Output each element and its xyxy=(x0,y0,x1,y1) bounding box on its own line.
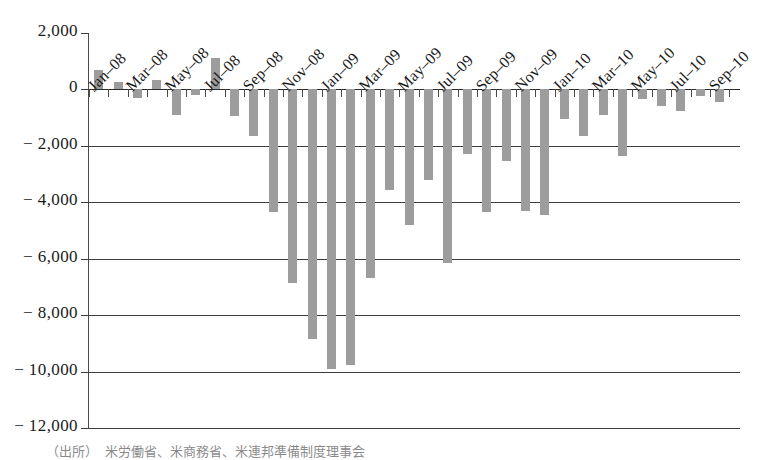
x-axis-tick xyxy=(555,89,556,97)
x-axis-tick xyxy=(205,89,206,97)
gridline--12000 xyxy=(88,428,740,429)
bar-Jan–09 xyxy=(327,89,336,368)
x-axis-tick xyxy=(264,89,265,97)
x-axis-tick xyxy=(671,89,672,97)
x-axis-tick xyxy=(244,89,245,97)
x-axis-tick xyxy=(535,89,536,97)
bar-Aug–10 xyxy=(696,89,705,96)
bar-Jul–09 xyxy=(443,89,452,263)
y-axis-tick-label: − 6,000 xyxy=(23,247,78,267)
bar-Mar–09 xyxy=(366,89,375,278)
x-axis-tick xyxy=(710,89,711,97)
x-axis-tick xyxy=(458,89,459,97)
bar-Apr–10 xyxy=(618,89,627,155)
x-axis-tick xyxy=(729,89,730,97)
bar-May–09 xyxy=(405,89,414,224)
x-axis-tick xyxy=(496,89,497,97)
bar-Oct–09 xyxy=(502,89,511,161)
x-axis-tick xyxy=(361,89,362,97)
bar-Nov–08 xyxy=(288,89,297,282)
source-note: （出所） 米労働省、米商務省、米連邦準備制度理事会 xyxy=(46,441,365,460)
x-axis-tick xyxy=(341,89,342,97)
y-axis-tick-label: − 8,000 xyxy=(23,303,78,323)
x-axis-tick xyxy=(438,89,439,97)
y-tick--12000 xyxy=(81,428,89,429)
x-axis-tick xyxy=(302,89,303,97)
bar-Jun–08 xyxy=(191,89,200,95)
x-axis-tick xyxy=(128,89,129,97)
bar-Aug–09 xyxy=(463,89,472,154)
x-axis-tick xyxy=(399,89,400,97)
x-axis-tick xyxy=(691,89,692,97)
x-axis-tick xyxy=(380,89,381,97)
x-axis-tick xyxy=(613,89,614,97)
x-axis-tick xyxy=(477,89,478,97)
bar-Sep–09 xyxy=(482,89,491,212)
x-axis-tick xyxy=(632,89,633,97)
y-axis-tick-label: − 2,000 xyxy=(23,134,78,154)
x-axis-tick xyxy=(283,89,284,97)
bar-Jun–10 xyxy=(657,89,666,106)
bar-Nov–09 xyxy=(521,89,530,210)
x-axis-tick xyxy=(593,89,594,97)
x-axis-tick xyxy=(186,89,187,97)
x-axis-tick xyxy=(147,89,148,97)
y-axis-tick-label: − 10,000 xyxy=(14,360,78,380)
bar-Oct–08 xyxy=(269,89,278,212)
x-axis-tick xyxy=(516,89,517,97)
x-axis-tick xyxy=(167,89,168,97)
x-axis-tick xyxy=(652,89,653,97)
bar-Apr–08 xyxy=(152,80,161,90)
bar-Aug–08 xyxy=(230,89,239,116)
x-axis-tick xyxy=(108,89,109,97)
bar-Apr–09 xyxy=(385,89,394,189)
y-axis-tick-label: − 4,000 xyxy=(23,190,78,210)
y-axis-tick-label: − 12,000 xyxy=(14,416,78,436)
bar-Sep–08 xyxy=(249,89,258,136)
x-axis-tick xyxy=(89,89,90,97)
y-axis-tick-label: 0 xyxy=(69,77,78,97)
bar-Feb–09 xyxy=(346,89,355,364)
bar-Dec–09 xyxy=(540,89,549,215)
x-axis-tick xyxy=(419,89,420,97)
bar-Jun–09 xyxy=(424,89,433,179)
x-axis-tick xyxy=(322,89,323,97)
x-axis-tick xyxy=(225,89,226,97)
bar-Feb–08 xyxy=(114,82,123,89)
bar-Feb–10 xyxy=(579,89,588,136)
y-axis-tick-label: 2,000 xyxy=(38,21,78,41)
x-axis-tick xyxy=(574,89,575,97)
bar-Dec–08 xyxy=(308,89,317,339)
